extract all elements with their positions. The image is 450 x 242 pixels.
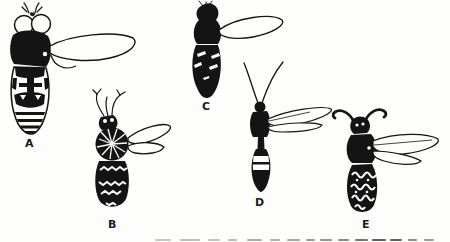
insect-e-abdomen [347, 164, 377, 212]
insect-b-antennae [93, 89, 125, 116]
insect-c-head-thorax [194, 3, 221, 44]
insect-a-antennae [22, 3, 42, 13]
insect-d-antennae [244, 62, 283, 103]
insect-d-thorax [250, 111, 270, 137]
figure-label-d: D [255, 197, 265, 208]
figure-label-b: B [108, 219, 117, 230]
insect-e-head [350, 116, 370, 134]
insect-d-abdomen [252, 149, 271, 192]
insect-e-illustration [318, 80, 448, 218]
insect-c-wing [219, 17, 283, 39]
insect-d-waist [258, 137, 265, 149]
insect-b-thorax [96, 128, 129, 161]
figure-label-a: A [25, 138, 34, 149]
figure-page: A B C D E [0, 0, 450, 242]
insect-e-thorax [347, 134, 377, 163]
insect-b-illustration [88, 88, 193, 213]
figure-label-e: E [362, 219, 370, 230]
insect-b-wings [128, 125, 170, 154]
insect-e-wings [373, 134, 438, 164]
figure-label-c: C [202, 101, 211, 112]
insect-b-abdomen [95, 161, 129, 207]
insect-a-thorax [10, 31, 51, 67]
insect-a-abdomen [11, 67, 49, 134]
insect-a-wing [50, 34, 135, 68]
cropped-caption-fragment [0, 236, 450, 242]
insect-c-abdomen [192, 45, 221, 98]
insect-d-head [255, 102, 266, 113]
